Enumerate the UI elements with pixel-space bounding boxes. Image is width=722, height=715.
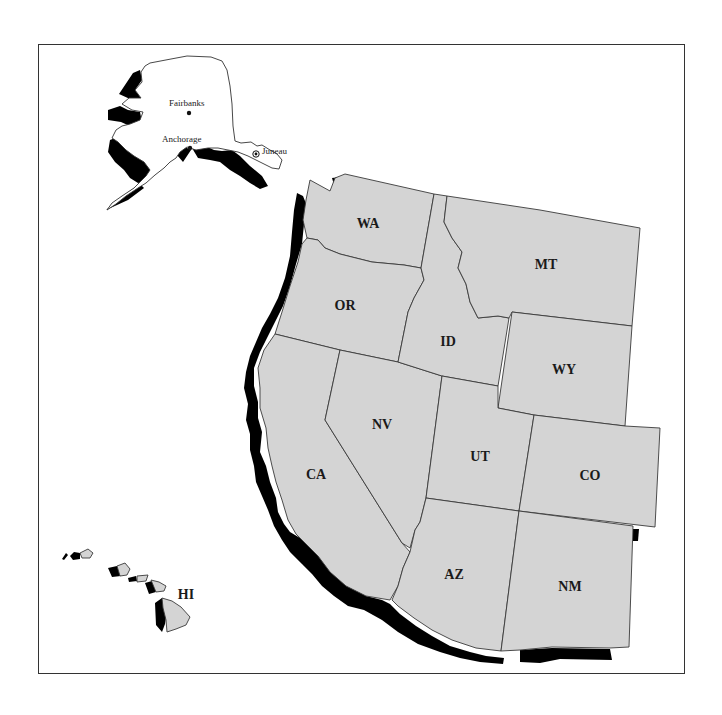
city-label-anchorage: Anchorage [162, 134, 201, 144]
western-us-map: Fairbanks Anchorage Juneau [0, 0, 722, 715]
label-wy: WY [552, 362, 576, 377]
hawaii-islands [80, 549, 190, 632]
alaska-inset[interactable]: Fairbanks Anchorage Juneau [106, 56, 287, 210]
city-label-juneau: Juneau [262, 146, 287, 156]
label-nm: NM [558, 579, 581, 594]
label-ca: CA [306, 467, 327, 482]
label-co: CO [580, 468, 601, 483]
label-id: ID [440, 334, 456, 349]
label-hi: HI [178, 587, 194, 602]
juneau-capital-icon [253, 151, 259, 157]
label-nv: NV [372, 417, 392, 432]
hawaii-inset[interactable] [62, 549, 190, 632]
label-mt: MT [535, 257, 558, 272]
hawaii-shadow [62, 552, 167, 632]
city-label-fairbanks: Fairbanks [169, 98, 205, 108]
label-or: OR [335, 298, 357, 313]
label-ut: UT [470, 449, 490, 464]
label-wa: WA [357, 216, 380, 231]
label-az: AZ [444, 567, 463, 582]
anchorage-dot [188, 146, 192, 150]
fairbanks-dot [187, 111, 191, 115]
